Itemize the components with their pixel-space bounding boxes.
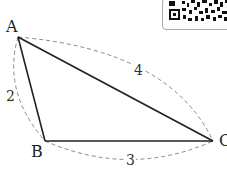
vertex-label-b: B bbox=[31, 144, 43, 160]
side-length-ac: 4 bbox=[133, 63, 144, 77]
vertex-label-c: C bbox=[219, 133, 227, 149]
vertex-label-a: A bbox=[6, 19, 18, 35]
side-ac bbox=[18, 37, 213, 141]
side-length-bc: 3 bbox=[125, 153, 136, 167]
side-length-ab: 2 bbox=[5, 89, 16, 103]
side-ab bbox=[18, 37, 45, 141]
